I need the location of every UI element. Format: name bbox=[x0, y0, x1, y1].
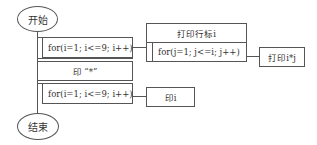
print-i-box: 印i bbox=[146, 87, 195, 107]
start-terminal: 开始 bbox=[17, 6, 58, 32]
loop2-connector bbox=[133, 96, 146, 97]
print-product-box: 打印i*j bbox=[259, 47, 305, 67]
print-product-label: 打印i*j bbox=[268, 51, 296, 63]
print-star-label: 印 “*” bbox=[73, 65, 98, 77]
print-row-header-label: 打印行标i bbox=[177, 27, 216, 39]
loop1-bottom-edge bbox=[37, 58, 133, 59]
inner-loop-connector bbox=[247, 56, 259, 57]
loop2-label: for(i=1; i<=9; i++) bbox=[48, 89, 133, 99]
print-row-header-box: 打印行标i bbox=[146, 23, 247, 43]
end-terminal: 结束 bbox=[17, 113, 59, 140]
print-star-box: 印 “*” bbox=[37, 61, 133, 81]
loop1-label: for(i=1; i<=9; i++) bbox=[48, 43, 133, 53]
print-i-label: 印i bbox=[165, 91, 177, 103]
inner-loop-bottom-edge bbox=[146, 61, 247, 62]
end-label: 结束 bbox=[28, 119, 48, 134]
loop2-box: for(i=1; i<=9; i++) bbox=[42, 83, 133, 104]
inner-loop-bracket bbox=[146, 42, 147, 62]
loop1-box: for(i=1; i<=9; i++) bbox=[42, 37, 133, 58]
start-label: 开始 bbox=[28, 12, 48, 27]
loop1-connector bbox=[133, 47, 146, 48]
inner-loop-box: for(j=1; j<=i; j++) bbox=[152, 42, 247, 62]
inner-loop-label: for(j=1; j<=i; j++) bbox=[158, 47, 240, 57]
